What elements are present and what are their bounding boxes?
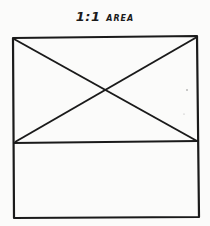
area-diagram xyxy=(0,0,210,226)
ink-speck xyxy=(183,113,184,114)
ink-speck xyxy=(186,89,188,91)
horizontal-divider xyxy=(13,141,198,143)
